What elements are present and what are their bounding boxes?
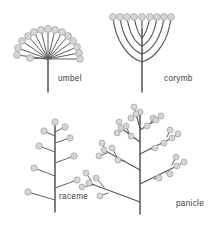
panicle-flower-bud bbox=[99, 140, 105, 146]
panicle-flower-bud bbox=[167, 171, 173, 177]
corymb-flower-bud bbox=[147, 14, 154, 21]
panicle-flower-bud bbox=[167, 127, 173, 133]
inflorescence-figure: umbel corymb raceme panicle bbox=[0, 0, 223, 231]
panicle-flower-bud bbox=[101, 147, 107, 153]
umbel-flower-bud bbox=[77, 56, 84, 63]
panicle-flower-bud bbox=[173, 154, 179, 160]
raceme-flower-bud bbox=[52, 119, 58, 125]
raceme-flower-bud bbox=[74, 177, 80, 183]
umbel-flower-bud bbox=[38, 27, 45, 34]
raceme-flower-bud bbox=[71, 153, 77, 159]
raceme-flower-bud bbox=[67, 135, 73, 141]
umbel-flower-bud bbox=[52, 27, 59, 34]
panicle-flower-bud bbox=[83, 170, 89, 176]
raceme-flower-bud bbox=[36, 143, 42, 149]
panicle-flower-bud bbox=[93, 175, 99, 181]
raceme-flower-bud bbox=[62, 124, 68, 130]
umbel-flower-bud bbox=[70, 38, 77, 45]
corymb-flower-bud bbox=[168, 14, 175, 21]
corymb-label: corymb bbox=[164, 74, 193, 83]
umbel-flower-bud bbox=[14, 52, 21, 59]
corymb-branch bbox=[113, 17, 142, 62]
panicle-flower-bud bbox=[131, 104, 137, 110]
umbel-flower-bud bbox=[15, 45, 22, 52]
raceme-label: raceme bbox=[59, 192, 88, 201]
umbel-flower-bud bbox=[25, 33, 32, 40]
panicle-flower-bud bbox=[79, 184, 85, 190]
corymb-flower-bud bbox=[139, 14, 146, 21]
corymb-branch bbox=[120, 17, 142, 54]
panicle-flower-bud bbox=[114, 130, 120, 136]
corymb-flower-bud bbox=[110, 14, 117, 21]
panicle-flower-bud bbox=[158, 113, 164, 119]
corymb-flower-bud bbox=[124, 14, 131, 21]
panicle-diagram bbox=[79, 104, 187, 214]
corymb-flower-bud bbox=[161, 14, 168, 21]
panicle-flower-bud bbox=[128, 115, 134, 121]
raceme-flower-bud bbox=[31, 165, 37, 171]
panicle-branch bbox=[89, 183, 140, 202]
corymb-branch bbox=[142, 17, 171, 62]
panicle-flower-bud bbox=[86, 180, 92, 186]
corymb-flower-bud bbox=[131, 14, 138, 21]
panicle-flower-bud bbox=[152, 145, 158, 151]
raceme-pedicel bbox=[28, 192, 55, 200]
panicle-flower-bud bbox=[181, 159, 187, 165]
panicle-flower-bud bbox=[116, 119, 122, 125]
umbel-label: umbel bbox=[58, 74, 82, 83]
panicle-flower-bud bbox=[175, 131, 181, 137]
corymb-flower-bud bbox=[154, 14, 161, 21]
panicle-flower-bud bbox=[128, 133, 134, 139]
panicle-flower-bud bbox=[115, 157, 121, 163]
panicle-label: panicle bbox=[176, 199, 204, 208]
raceme-flower-bud bbox=[25, 189, 31, 195]
panicle-flower-bud bbox=[153, 117, 159, 123]
umbel-flower-bud bbox=[31, 29, 38, 36]
raceme-flower-bud bbox=[41, 128, 47, 134]
panicle-flower-bud bbox=[174, 163, 180, 169]
panicle-flower-bud bbox=[161, 140, 167, 146]
umbel-flower-bud bbox=[59, 29, 66, 36]
panicle-flower-bud bbox=[156, 175, 162, 181]
panicle-flower-bud bbox=[96, 153, 102, 159]
panicle-flower-bud bbox=[169, 135, 175, 141]
umbel-flower-bud bbox=[19, 38, 26, 45]
panicle-flower-bud bbox=[109, 145, 115, 151]
panicle-flower-bud bbox=[133, 111, 139, 117]
corymb-branch bbox=[142, 17, 164, 54]
panicle-flower-bud bbox=[97, 193, 103, 199]
panicle-flower-bud bbox=[118, 125, 124, 131]
panicle-branch bbox=[104, 150, 140, 170]
umbel-flower-bud bbox=[45, 26, 52, 33]
panicle-flower-bud bbox=[144, 123, 150, 129]
umbel-flower-bud bbox=[27, 55, 34, 62]
inflorescence-diagram: umbel corymb raceme panicle bbox=[0, 0, 223, 231]
corymb-flower-bud bbox=[117, 14, 124, 21]
